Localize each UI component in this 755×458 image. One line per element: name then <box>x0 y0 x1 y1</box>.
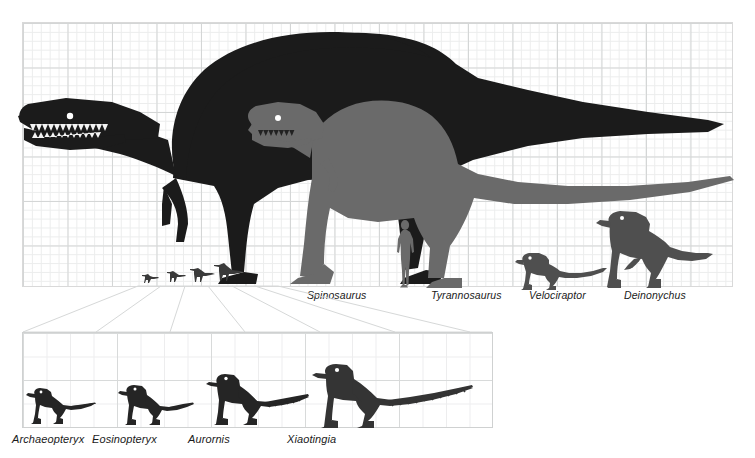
silhouette-archaeopteryx-mini <box>142 271 160 283</box>
label-tyrannosaurus: Tyrannosaurus <box>431 289 502 301</box>
silhouette-aurornis-mini <box>190 264 216 282</box>
label-velociraptor: Velociraptor <box>529 289 586 301</box>
silhouette-eosinopteryx-mini <box>167 268 187 282</box>
silhouette-deinonychus <box>594 207 714 289</box>
label-eosinopteryx: Eosinopteryx <box>92 433 157 445</box>
label-archaeopteryx: Archaeopteryx <box>12 433 84 445</box>
label-spinosaurus: Spinosaurus <box>307 289 366 301</box>
silhouette-human <box>390 219 420 289</box>
silhouette-eosinopteryx <box>117 383 195 425</box>
silhouette-aurornis <box>205 372 310 425</box>
silhouette-xiaotingia-mini <box>214 259 244 281</box>
silhouette-archaeopteryx <box>25 386 97 424</box>
label-aurornis: Aurornis <box>188 433 230 445</box>
label-xiaotingia: Xiaotingia <box>287 433 336 445</box>
label-deinonychus: Deinonychus <box>624 289 686 301</box>
silhouette-xiaotingia <box>310 362 475 428</box>
size-comparison-figure: Spinosaurus Tyrannosaurus Velociraptor D… <box>0 0 755 458</box>
